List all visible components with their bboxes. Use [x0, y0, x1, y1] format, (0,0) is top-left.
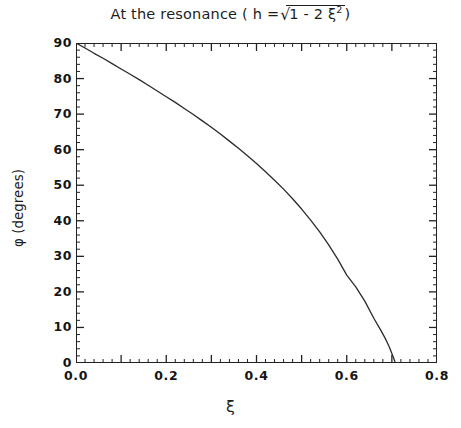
y-tick-label: 70: [32, 108, 72, 121]
y-tick-label: 90: [32, 37, 72, 50]
plot-canvas: [76, 43, 437, 363]
chart-figure: At the resonance ( h =√1 - 2 ξ2 ) 908070…: [0, 0, 461, 428]
data-series-group: [76, 43, 395, 363]
y-tick-label: 60: [32, 144, 72, 157]
radicand-base: 1 - 2 ξ: [289, 6, 336, 22]
y-tick-label: 30: [32, 250, 72, 263]
y-tick-label: 20: [32, 286, 72, 299]
y-tick-label: 10: [32, 321, 72, 334]
y-axis-title: φ (degrees): [10, 128, 26, 288]
radicand-exponent: 2: [336, 4, 342, 15]
x-axis-title: ξ: [0, 397, 461, 416]
y-tick-label: 50: [32, 179, 72, 192]
x-tick-label: 0.6: [312, 370, 382, 383]
x-axis-tick-labels: 0.00.20.40.60.8: [0, 370, 461, 390]
x-tick-label: 0.2: [131, 370, 201, 383]
chart-title-trail: ): [345, 6, 351, 22]
x-tick-label: 0.4: [222, 370, 292, 383]
chart-title-lead: At the resonance ( h =: [111, 6, 280, 22]
x-tick-label: 0.8: [402, 370, 461, 383]
y-tick-label: 40: [32, 215, 72, 228]
axis-ticks: [76, 43, 437, 363]
y-tick-label: 80: [32, 73, 72, 86]
x-tick-label: 0.0: [41, 370, 111, 383]
data-line-0: [76, 43, 395, 363]
y-axis-tick-labels: 9080706050403020100: [28, 0, 72, 428]
sqrt-expression: √1 - 2 ξ2: [279, 5, 344, 24]
sqrt-radicand: 1 - 2 ξ2: [286, 5, 344, 22]
